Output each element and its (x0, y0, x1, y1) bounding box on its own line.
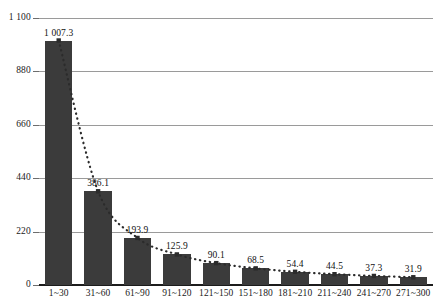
y-axis-tickmark (33, 285, 39, 286)
x-axis-category-label: 271~300 (394, 288, 433, 298)
x-axis-category-label: 241~270 (354, 288, 393, 298)
bar-value-label: 1 007.3 (39, 29, 78, 39)
bar-value-label: 125.9 (157, 242, 196, 252)
y-axis-tick-label: 0 (26, 280, 31, 290)
x-axis-labels: 1~3031~6061~9091~120121~150151~180181~21… (39, 288, 433, 306)
x-axis-category-label: 31~60 (78, 288, 117, 298)
bar-value-label: 68.5 (236, 256, 275, 266)
x-axis-category-label: 151~180 (236, 288, 275, 298)
y-axis-tickmark (33, 18, 39, 19)
bar-value-label: 193.9 (118, 226, 157, 236)
y-axis-tickmark (33, 125, 39, 126)
bar-value-label: 44.5 (315, 262, 354, 272)
y-axis-tickmark (33, 232, 39, 233)
bar (281, 272, 309, 285)
x-axis-category-label: 1~30 (39, 288, 78, 298)
bar (400, 277, 428, 285)
bar-chart: 02204406608801 100 1 007.3386.1193.9125.… (0, 0, 441, 308)
y-axis-labels: 02204406608801 100 (0, 0, 31, 308)
bars-layer: 1 007.3386.1193.9125.990.168.554.444.537… (39, 18, 433, 285)
bar-value-label: 37.3 (354, 264, 393, 274)
bar (124, 238, 152, 285)
bar (163, 254, 191, 285)
y-axis-tickmark (33, 71, 39, 72)
y-axis-tick-label: 220 (16, 227, 31, 237)
bar-value-label: 31.9 (394, 265, 433, 275)
y-axis-tick-label: 440 (16, 173, 31, 183)
y-axis-tickmark (33, 178, 39, 179)
bar-value-label: 386.1 (78, 179, 117, 189)
plot-area: 1 007.3386.1193.9125.990.168.554.444.537… (39, 18, 433, 285)
x-axis-category-label: 61~90 (118, 288, 157, 298)
x-axis-category-label: 91~120 (157, 288, 196, 298)
bar (321, 274, 349, 285)
x-axis-category-label: 121~150 (197, 288, 236, 298)
bar (360, 276, 388, 285)
bar (45, 41, 73, 285)
bar (242, 268, 270, 285)
bar-value-label: 90.1 (197, 251, 236, 261)
x-axis-category-label: 211~240 (315, 288, 354, 298)
bar (84, 191, 112, 285)
y-axis-tick-label: 1 100 (9, 13, 31, 23)
y-axis-tick-label: 660 (16, 120, 31, 130)
y-axis-tick-label: 880 (16, 67, 31, 77)
x-axis-category-label: 181~210 (275, 288, 314, 298)
bar-value-label: 54.4 (275, 260, 314, 270)
bar (203, 263, 231, 285)
